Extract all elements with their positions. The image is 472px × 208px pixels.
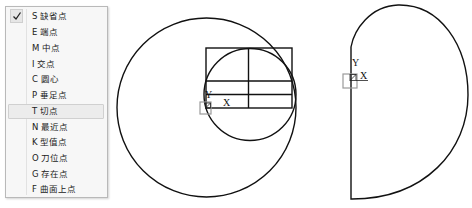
d-shape-profile[interactable] [351, 5, 468, 199]
menu-item-label: P 垂足点 [32, 88, 67, 103]
menu-item-label: G 存在点 [32, 167, 68, 182]
menu-item-label: S 缺省点 [32, 9, 67, 24]
menu-item-point-on-surface[interactable]: F 曲面上点 [8, 182, 104, 197]
menu-item-intersection[interactable]: I 交点 [8, 57, 104, 72]
snap-point-context-menu: S 缺省点 E 端点 M 中点 I 交点 C 圆心 P 垂足点 T 切点 N 最… [5, 6, 108, 198]
checked-indicator [10, 9, 23, 23]
menu-item-label: K 型值点 [32, 135, 67, 150]
figure-1-y-axis-label: Y [205, 90, 212, 100]
menu-item-label: T 切点 [32, 104, 58, 119]
origin-marker-1 [200, 102, 211, 114]
menu-item-endpoint[interactable]: E 端点 [8, 25, 104, 40]
menu-item-label: N 最近点 [32, 120, 68, 135]
menu-item-control-point[interactable]: K 型值点 [8, 135, 104, 150]
menu-item-center[interactable]: C 圆心 [8, 72, 104, 87]
menu-item-nearest[interactable]: N 最近点 [8, 120, 104, 135]
menu-item-label: E 端点 [32, 25, 58, 40]
menu-item-default-point[interactable]: S 缺省点 [8, 9, 104, 24]
menu-item-perpendicular[interactable]: P 垂足点 [8, 88, 104, 103]
figure-2 [351, 5, 468, 199]
figure-1-x-axis-label: X [223, 98, 230, 108]
menu-item-label: M 中点 [32, 41, 60, 56]
menu-item-existing-point[interactable]: G 存在点 [8, 167, 104, 182]
figure-2-y-axis-label: Y [352, 58, 359, 68]
figure-2-x-axis-label: X [360, 71, 367, 81]
menu-item-label: I 交点 [32, 57, 55, 72]
menu-item-label: O 刀位点 [32, 151, 68, 166]
menu-item-tangent[interactable]: T 切点 [8, 104, 104, 119]
menu-item-label: F 曲面上点 [32, 182, 76, 197]
menu-item-label: C 圆心 [32, 72, 59, 87]
checkmark-icon [12, 11, 22, 21]
menu-item-midpoint[interactable]: M 中点 [8, 41, 104, 56]
menu-item-tool-position[interactable]: O 刀位点 [8, 151, 104, 166]
